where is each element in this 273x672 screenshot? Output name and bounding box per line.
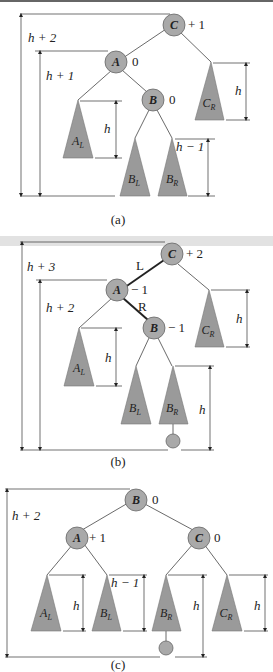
subtree-cr [212,575,242,631]
panel-c: AL BL BR CR B 0 A + 1 C 0 h + 2 h h − 1 … [5,489,268,672]
height-label: h − 1 [111,575,139,590]
edge-b-br [157,110,172,138]
node-label: B [131,493,140,507]
balance-factor: + 1 [188,17,205,32]
subtree-al [63,100,93,158]
edge-a-al [78,70,112,100]
balance-factor: + 1 [89,530,106,545]
node-label: C [168,247,177,261]
panel-b: L R AL BL BR CR C + 2 A − 1 B − 1 h + 3 … [20,242,250,469]
edge-label: L [136,258,144,273]
node-label: A [111,55,120,69]
balance-factor: 0 [152,492,159,507]
node-label: A [72,531,81,545]
balance-factor: 0 [169,92,176,107]
height-label: h [235,83,242,98]
caption: (b) [110,454,125,469]
edge-a-al [79,298,112,328]
node-label: A [112,283,121,297]
height-label: h − 1 [176,139,204,154]
edge-b-br [158,338,172,366]
node-label: C [195,531,204,545]
balance-factor: − 1 [168,320,185,335]
edge-c-cr [178,30,211,62]
subtree-br [152,575,181,631]
edge-a-al [47,544,73,575]
height-label: h [193,598,200,613]
height-label: h [105,350,112,365]
edge-a-b [122,70,147,92]
subtree-cr [195,62,224,120]
edge-a-bl [84,544,107,575]
edge-b-bl [136,338,149,366]
node-label: B [149,321,158,335]
edge-b-c [143,503,193,530]
subtree-al [64,328,94,386]
height-label: h [254,598,261,613]
subtree-al [31,575,61,631]
balance-factor: 0 [132,54,139,69]
caption: (c) [111,657,125,672]
height-label: h [236,311,243,326]
avl-rotation-diagram: AL BL BR CR C + 1 A 0 B 0 h + 2 h + 1 h … [0,0,273,672]
scan-band [0,236,273,246]
node-label: B [148,93,157,107]
edge-c-cr [204,544,227,575]
node-label: C [170,18,179,32]
balance-factor: − 1 [131,282,148,297]
height-label: h + 3 [27,259,56,274]
edge-label: R [138,299,147,314]
height-label: h [199,402,206,417]
new-node [166,434,180,448]
edge-c-br [166,544,193,575]
caption: (a) [111,212,125,227]
height-label: h + 1 [46,68,74,83]
panel-a: AL BL BR CR C + 1 A 0 B 0 h + 2 h + 1 h … [20,14,250,227]
height-label: h + 2 [12,508,41,523]
height-label: h [73,598,80,613]
height-label: h + 2 [28,30,57,45]
height-label: h + 2 [46,300,75,315]
edge-b-bl [135,110,149,138]
edge-c-cr [178,264,209,290]
height-label: h [104,121,111,136]
edge-b-a [82,503,128,530]
balance-factor: + 2 [186,246,203,261]
balance-factor: 0 [214,530,221,545]
new-node [159,641,173,655]
